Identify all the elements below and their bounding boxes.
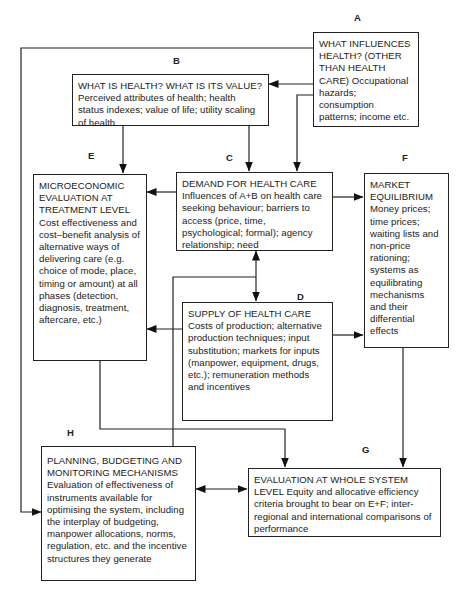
node-f-market-equilibrium: MARKET EQUILIBRIUM Money prices; time pr…: [364, 173, 449, 348]
node-label-c: C: [226, 152, 233, 163]
node-e-title: MICROECONOMIC EVALUATION AT TREATMENT LE…: [39, 180, 130, 215]
edge-a-to-c: [297, 95, 313, 171]
node-g-evaluation-whole-system: EVALUATION AT WHOLE SYSTEM LEVEL Equity …: [248, 468, 441, 537]
node-label-d: D: [297, 291, 304, 302]
node-e-microeconomic-evaluation: MICROECONOMIC EVALUATION AT TREATMENT LE…: [33, 174, 147, 361]
node-label-f: F: [402, 152, 408, 163]
node-label-h: H: [67, 427, 74, 438]
node-b-what-is-health: WHAT IS HEALTH? WHAT IS ITS VALUE? Perce…: [72, 74, 269, 126]
node-c-body: Influences of A+B on health care seeking…: [182, 190, 322, 250]
node-h-title: PLANNING, BUDGETING AND MONITORING MECHA…: [47, 455, 182, 478]
node-label-e: E: [88, 150, 94, 161]
node-label-g: G: [362, 444, 369, 455]
node-d-title: SUPPLY OF HEALTH CARE: [188, 308, 311, 319]
node-c-title: DEMAND FOR HEALTH CARE: [182, 178, 317, 189]
node-d-supply-of-health-care: SUPPLY OF HEALTH CARE Costs of productio…: [182, 302, 333, 421]
node-f-title: MARKET EQUILIBRIUM: [370, 179, 433, 202]
node-h-planning-budgeting-monitoring: PLANNING, BUDGETING AND MONITORING MECHA…: [41, 446, 196, 581]
node-c-demand-for-health-care: DEMAND FOR HEALTH CARE Influences of A+B…: [176, 172, 333, 251]
node-label-b: B: [173, 55, 180, 66]
node-b-body: Perceived attributes of health; health s…: [78, 92, 255, 127]
node-label-a: A: [354, 12, 361, 23]
node-e-body: Cost effectiveness and cost–benefit anal…: [39, 217, 140, 326]
node-h-body: Evaluation of effectiveness of instrumen…: [47, 479, 187, 563]
node-b-title: WHAT IS HEALTH? WHAT IS ITS VALUE?: [78, 80, 262, 91]
node-d-body: Costs of production; alternative product…: [188, 320, 322, 392]
node-a-what-influences-health: WHAT INFLUENCES HEALTH? (OTHER THAN HEAL…: [313, 32, 419, 127]
node-f-body: Money prices; time prices; waiting lists…: [370, 203, 439, 336]
